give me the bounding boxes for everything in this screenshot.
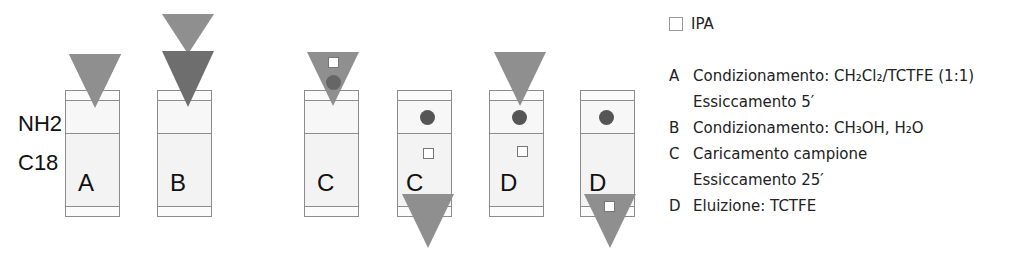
step-text: Condizionamento: CH₃OH, H₂O: [693, 119, 923, 137]
cartridge-label: D: [500, 171, 517, 195]
ipa-legend-label: IPA: [691, 15, 714, 33]
analyte-dot-icon: [326, 75, 341, 90]
c18-label: C18: [18, 152, 58, 174]
step-text: Caricamento campione: [693, 145, 867, 163]
cartridge-label: C: [317, 171, 334, 195]
spe-cartridge-a: A: [65, 90, 120, 217]
ipa-square-icon: [604, 201, 615, 212]
cartridge-label: A: [78, 171, 94, 195]
cartridge-label: D: [589, 171, 606, 195]
ipa-square-icon: [517, 146, 528, 157]
step-key: B: [669, 119, 693, 137]
cartridge-label: B: [170, 171, 186, 195]
ipa-square-icon: [328, 57, 339, 68]
analyte-dot-icon: [599, 110, 614, 125]
step-text: Eluizione: TCTFE: [693, 197, 816, 215]
step-text: Essiccamento 5′: [693, 93, 814, 111]
step-key: C: [669, 145, 693, 163]
step-text: Essiccamento 25′: [693, 171, 824, 189]
eluate-triangle-icon: [402, 194, 454, 248]
spe-cartridge-c1: C: [304, 90, 359, 217]
solvent-triangle-dark-icon: [162, 51, 214, 107]
solvent-triangle-icon: [162, 14, 214, 54]
cartridge-label: C: [406, 171, 423, 195]
solvent-triangle-icon: [69, 54, 121, 108]
ipa-legend-square-icon: [669, 17, 683, 31]
step-text: Condizionamento: CH₂Cl₂/TCTFE (1:1): [693, 67, 974, 85]
step-key: D: [669, 197, 693, 215]
analyte-dot-icon: [512, 110, 527, 125]
analyte-dot-icon: [420, 110, 435, 125]
spe-cartridge-b: B: [157, 90, 212, 217]
ipa-square-icon: [423, 148, 434, 159]
solvent-triangle-icon: [494, 52, 546, 106]
step-key: A: [669, 67, 693, 85]
nh2-label: NH2: [18, 113, 62, 135]
